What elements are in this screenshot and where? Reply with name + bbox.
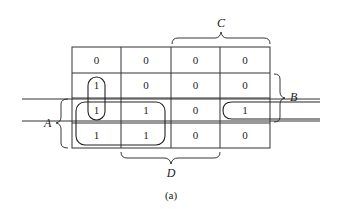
label-b: B xyxy=(290,90,298,104)
label-a: A xyxy=(43,116,52,130)
cell-r1c1: 0 xyxy=(94,54,100,66)
map-grid xyxy=(72,47,270,148)
cell-r3c1: 1 xyxy=(94,104,100,116)
cell-r2c1: 1 xyxy=(94,79,100,91)
cell-r2c4: 0 xyxy=(242,79,248,91)
brace-b xyxy=(274,74,285,122)
figure-caption: (a) xyxy=(165,189,178,202)
cell-r3c4: 1 xyxy=(242,104,248,116)
cell-r1c3: 0 xyxy=(193,54,199,66)
brace-c xyxy=(172,32,270,44)
cell-r4c4: 0 xyxy=(242,129,248,141)
label-c: C xyxy=(217,16,226,30)
cell-r3c2: 1 xyxy=(143,104,149,116)
cell-r1c4: 0 xyxy=(242,54,248,66)
cell-r4c1: 1 xyxy=(94,129,100,141)
cell-r2c2: 0 xyxy=(143,79,149,91)
brace-a xyxy=(56,99,68,148)
label-d: D xyxy=(166,166,176,180)
cell-r4c2: 1 xyxy=(143,129,149,141)
group-loop-wraparound-pair xyxy=(223,102,320,119)
cell-r2c3: 0 xyxy=(193,79,199,91)
karnaugh-map: 0 0 0 0 1 0 0 0 1 1 0 1 1 1 0 0 C B A D … xyxy=(0,0,341,209)
cell-r3c3: 0 xyxy=(193,104,199,116)
brace-d xyxy=(121,152,220,164)
cell-r1c2: 0 xyxy=(143,54,149,66)
cell-r4c3: 0 xyxy=(193,129,199,141)
